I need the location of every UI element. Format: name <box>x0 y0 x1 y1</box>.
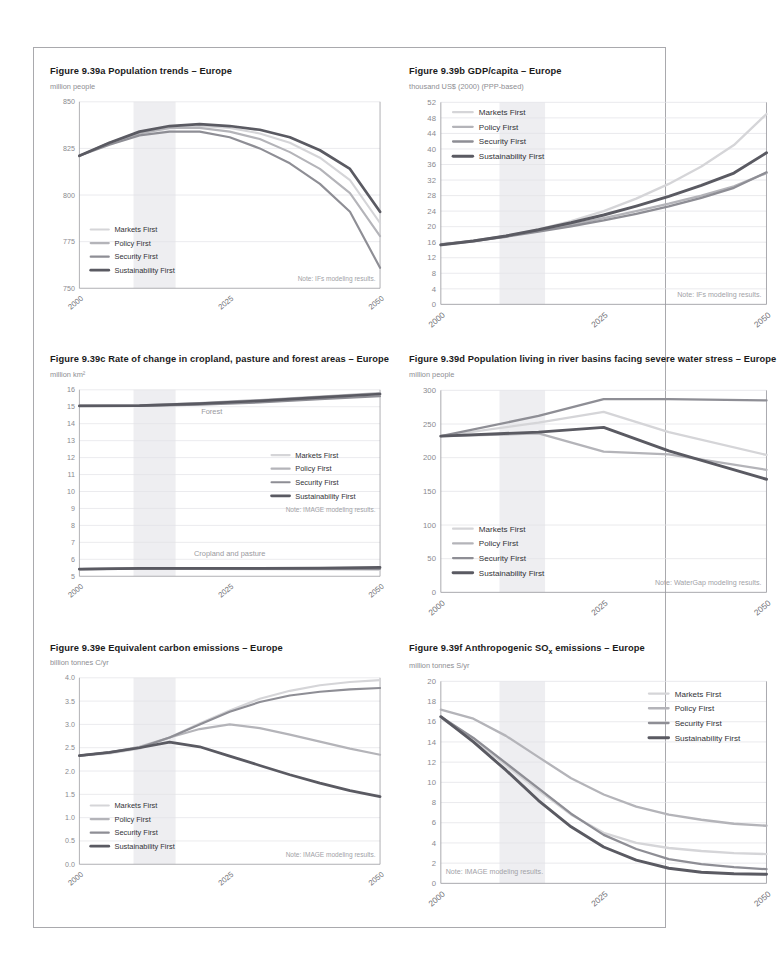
figure-panel-fig-939b: Figure 9.39b GDP/capita – Europethousand… <box>399 58 781 346</box>
legend-item[interactable]: Markets First <box>91 225 159 234</box>
y-axis-tick-label: 36 <box>427 160 436 169</box>
y-axis-tick-label: 14 <box>67 420 75 428</box>
legend-item[interactable]: Markets First <box>649 689 722 698</box>
legend-item[interactable]: Markets First <box>272 451 340 460</box>
figure-panel-fig-939f: Figure 9.39f Anthropogenic SOx emissions… <box>399 635 781 923</box>
inline-series-label: Forest <box>201 408 223 417</box>
x-axis-tick: 2000 <box>426 888 447 908</box>
series-line <box>441 153 767 245</box>
legend-label: Sustainability First <box>114 842 175 851</box>
y-axis-tick-label: 16 <box>427 717 436 726</box>
legend-label: Policy First <box>675 704 715 713</box>
source-note: Note: WaterGap modeling results. <box>655 579 762 587</box>
legend-label: Security First <box>114 829 158 838</box>
legend-item[interactable]: Policy First <box>91 239 152 248</box>
y-axis-tick-label: 10 <box>67 488 75 496</box>
figure-panel-fig-939a: Figure 9.39a Population trends – Europem… <box>40 58 399 346</box>
y-axis-tick-label: 750 <box>63 285 75 293</box>
x-axis-tick-label: 2025 <box>216 582 235 600</box>
legend-item[interactable]: Sustainability First <box>272 492 357 501</box>
x-axis-tick: 2025 <box>216 582 235 600</box>
y-axis-tick-label: 24 <box>427 207 436 216</box>
legend-label: Policy First <box>479 123 519 132</box>
series-line <box>441 399 767 436</box>
chart-plot: 5678910111213141516200020252050ForestCro… <box>50 383 389 603</box>
chart-plot: 750775800825850200020252050Markets First… <box>50 95 389 315</box>
figure-panel-fig-939c: Figure 9.39c Rate of change in cropland,… <box>40 346 399 634</box>
y-axis-tick-label: 200 <box>423 454 436 463</box>
legend-label: Markets First <box>114 225 158 234</box>
legend-item[interactable]: Sustainability First <box>649 733 741 742</box>
legend-item[interactable]: Markets First <box>91 802 159 811</box>
source-note: Note: IFs modeling results. <box>298 275 376 283</box>
axis-unit-label: million tonnes S/yr <box>409 662 776 670</box>
y-axis-tick-label: 28 <box>427 191 436 200</box>
y-axis-tick-label: 12 <box>67 454 75 462</box>
source-note: Note: IMAGE modeling results. <box>286 852 376 860</box>
x-axis-tick-label: 2000 <box>66 294 85 312</box>
legend-item[interactable]: Policy First <box>272 465 333 474</box>
legend-label: Policy First <box>114 815 151 824</box>
legend-item[interactable]: Sustainability First <box>453 152 545 161</box>
x-axis-tick-label: 2025 <box>589 598 610 618</box>
y-axis-tick-label: 800 <box>63 191 75 199</box>
y-axis-tick-label: 0 <box>432 300 436 309</box>
legend-label: Sustainability First <box>295 492 356 501</box>
y-axis-tick-label: 850 <box>63 98 75 106</box>
x-axis-tick: 2000 <box>66 870 85 888</box>
legend-item[interactable]: Sustainability First <box>91 266 176 275</box>
legend-item[interactable]: Markets First <box>453 525 526 534</box>
y-axis-tick-label: 20 <box>427 677 436 686</box>
x-axis-tick-label: 2000 <box>426 310 447 330</box>
legend-item[interactable]: Sustainability First <box>91 842 176 851</box>
legend-item[interactable]: Policy First <box>91 815 152 824</box>
legend-item[interactable]: Security First <box>91 829 159 838</box>
y-axis-tick-label: 5 <box>71 573 75 581</box>
y-axis-tick-label: 48 <box>427 113 436 122</box>
legend-item[interactable]: Policy First <box>649 704 715 713</box>
x-axis-tick: 2050 <box>752 598 773 618</box>
figure-panel-fig-939d: Figure 9.39d Population living in river … <box>399 346 781 634</box>
legend-label: Security First <box>675 719 723 728</box>
panel-title: Figure 9.39f Anthropogenic SOx emissions… <box>409 643 776 656</box>
chart-plot: 0481216202428323640444852200020252050Mar… <box>409 95 776 334</box>
y-axis-tick-label: 50 <box>427 555 436 564</box>
y-axis-tick-label: 10 <box>427 778 436 787</box>
series-line <box>79 568 380 570</box>
legend-item[interactable]: Policy First <box>453 123 519 132</box>
legend-item[interactable]: Security First <box>453 554 527 563</box>
y-axis-tick-label: 9 <box>71 505 75 513</box>
legend-item[interactable]: Security First <box>453 137 527 146</box>
legend-item[interactable]: Security First <box>272 478 340 487</box>
y-axis-tick-label: 16 <box>427 238 436 247</box>
y-axis-tick-label: 3.5 <box>65 698 75 706</box>
legend-item[interactable]: Policy First <box>453 539 519 548</box>
plot-area: 050100150200250300200020252050Markets Fi… <box>409 383 776 622</box>
x-axis-tick-label: 2050 <box>367 582 386 600</box>
y-axis-tick-label: 7 <box>71 539 75 547</box>
x-axis-tick: 2050 <box>367 582 386 600</box>
y-axis-tick-label: 13 <box>67 437 75 445</box>
panel-title: Figure 9.39e Equivalent carbon emissions… <box>50 643 389 654</box>
y-axis-tick-label: 0.0 <box>65 861 75 869</box>
figure-page: Figure 9.39a Population trends – Europem… <box>33 47 666 928</box>
panel-title: Figure 9.39a Population trends – Europe <box>50 66 389 77</box>
legend-label: Sustainability First <box>479 152 545 161</box>
legend-item[interactable]: Security First <box>649 719 723 728</box>
y-axis-tick-label: 1.0 <box>65 815 75 823</box>
y-axis-tick-label: 8 <box>432 269 436 278</box>
x-axis-tick: 2000 <box>66 294 85 312</box>
plot-area: 750775800825850200020252050Markets First… <box>50 95 389 315</box>
axis-unit-label: million people <box>50 83 389 91</box>
y-axis-tick-label: 14 <box>427 737 436 746</box>
legend-label: Markets First <box>675 689 722 698</box>
source-note: Note: IMAGE modeling results. <box>446 867 543 875</box>
legend-item[interactable]: Security First <box>91 252 159 261</box>
historic-band <box>500 102 546 304</box>
legend-label: Sustainability First <box>675 733 741 742</box>
panel-title-main: Figure 9.39f Anthropogenic SO <box>409 643 548 653</box>
legend-item[interactable]: Markets First <box>453 108 526 117</box>
y-axis-tick-label: 3.0 <box>65 721 75 729</box>
legend-item[interactable]: Sustainability First <box>453 569 545 578</box>
y-axis-tick-label: 775 <box>63 238 75 246</box>
